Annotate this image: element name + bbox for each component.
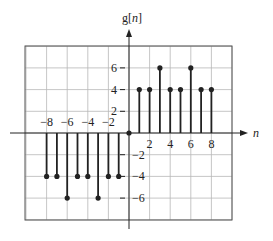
stem-marker bbox=[178, 87, 183, 92]
stem-marker bbox=[188, 65, 193, 70]
x-tick-label: 2 bbox=[147, 137, 153, 151]
x-tick-label: −6 bbox=[61, 115, 74, 129]
stem-marker bbox=[96, 196, 101, 201]
y-tick-label: −6 bbox=[132, 191, 145, 205]
stem-marker bbox=[75, 174, 80, 179]
y-tick-label: −4 bbox=[132, 169, 145, 183]
stem bbox=[147, 87, 152, 133]
y-axis-label-g: g[ bbox=[122, 11, 132, 25]
x-tick-label: −4 bbox=[81, 115, 94, 129]
stem bbox=[96, 133, 101, 201]
y-tick-label: −2 bbox=[132, 148, 145, 162]
y-axis-label: g[n] bbox=[122, 11, 142, 25]
x-axis-arrow-icon bbox=[240, 130, 248, 136]
stem-marker bbox=[85, 174, 90, 179]
x-tick-label: 4 bbox=[167, 137, 173, 151]
stem bbox=[65, 133, 70, 201]
stem-marker bbox=[168, 87, 173, 92]
stem-marker bbox=[54, 174, 59, 179]
stem bbox=[75, 133, 80, 179]
stem-marker bbox=[106, 174, 111, 179]
stem bbox=[188, 65, 193, 133]
stem-plot: −8−6−4−22468642−2−4−6 g[n] n bbox=[0, 0, 273, 241]
x-tick-label: −8 bbox=[40, 115, 53, 129]
stem bbox=[85, 133, 90, 179]
stem bbox=[209, 87, 214, 133]
stem-marker bbox=[147, 87, 152, 92]
stem-marker bbox=[199, 87, 204, 92]
stem bbox=[54, 133, 59, 179]
y-tick-label: 2 bbox=[111, 104, 117, 118]
x-tick-label: 8 bbox=[208, 137, 214, 151]
stem-marker bbox=[157, 65, 162, 70]
stem bbox=[137, 87, 142, 133]
stem-marker bbox=[65, 196, 70, 201]
y-tick-label: 4 bbox=[111, 83, 117, 97]
stem-marker bbox=[137, 87, 142, 92]
stem bbox=[116, 133, 121, 179]
stem bbox=[178, 87, 183, 133]
y-axis-arrow-icon bbox=[126, 29, 132, 37]
stem-marker bbox=[44, 174, 49, 179]
y-tick-label: 6 bbox=[111, 61, 117, 75]
x-tick-label: 6 bbox=[188, 137, 194, 151]
axes bbox=[10, 29, 248, 229]
stem-marker bbox=[209, 87, 214, 92]
stem bbox=[106, 133, 111, 179]
stem bbox=[168, 87, 173, 133]
stem-marker bbox=[126, 130, 131, 135]
stem bbox=[44, 133, 49, 179]
x-axis-label: n bbox=[253, 126, 259, 140]
stem bbox=[126, 130, 131, 135]
stem bbox=[199, 87, 204, 133]
stem bbox=[157, 65, 162, 133]
